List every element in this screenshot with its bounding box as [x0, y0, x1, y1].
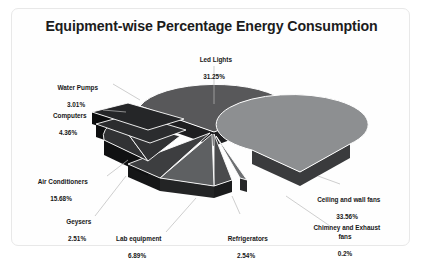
label-computers: Computers 4.36%: [25, 104, 111, 146]
label-led-lights: Led Lights 31.25%: [164, 48, 264, 90]
label-chimney-exhaust-fans: Chimney and Exhaust fans 0.2%: [292, 216, 398, 263]
label-refrigerators: Refrigerators 2.54%: [205, 227, 287, 263]
label-air-conditioners: Air Conditioners 15.68%: [14, 170, 108, 212]
label-lab-equipment: Lab equipment 6.89%: [96, 227, 178, 263]
